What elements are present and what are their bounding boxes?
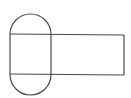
- bottom-chord: [10, 74, 124, 75]
- top-chord: [10, 34, 124, 35]
- vertical-stadium: [10, 14, 51, 95]
- geometric-diagram: [0, 0, 131, 98]
